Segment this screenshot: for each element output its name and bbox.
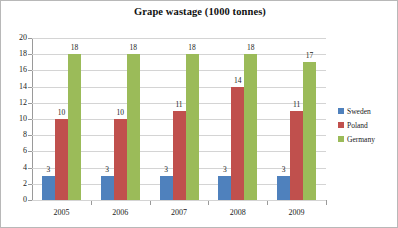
y-tick-mark <box>28 103 32 104</box>
x-tick-mark <box>326 201 327 205</box>
bar-value-label: 18 <box>179 44 205 52</box>
legend-swatch-icon <box>338 136 344 142</box>
y-tick-mark <box>28 70 32 71</box>
legend-item-poland[interactable]: Poland <box>338 118 398 132</box>
y-tick-label: 12 <box>5 99 27 107</box>
y-tick-mark <box>28 87 32 88</box>
y-tick-mark <box>28 151 32 152</box>
y-tick-mark <box>28 184 32 185</box>
legend-swatch-icon <box>338 122 344 128</box>
bar-sweden-2009[interactable] <box>277 176 290 200</box>
legend-label: Sweden <box>347 107 371 116</box>
y-tick-mark <box>28 119 32 120</box>
legend-item-germany[interactable]: Germany <box>338 132 398 146</box>
bar-value-label: 17 <box>297 52 323 60</box>
bar-germany-2008[interactable] <box>244 54 257 200</box>
x-tick-label-2009: 2009 <box>267 208 327 217</box>
bar-poland-2005[interactable] <box>55 119 68 200</box>
x-tick-mark <box>267 201 268 205</box>
bar-value-label: 18 <box>120 44 146 52</box>
bar-value-label: 18 <box>238 44 264 52</box>
gridline <box>32 38 326 39</box>
bar-germany-2005[interactable] <box>68 54 81 200</box>
y-tick-mark <box>28 54 32 55</box>
plot-area: 3101831018311183141831117 <box>32 38 326 200</box>
x-tick-mark <box>91 201 92 205</box>
y-axis: 20181614121086420 <box>1 1 27 228</box>
chart-container: Grape wastage (1000 tonnes) 201816141210… <box>0 0 398 228</box>
chart-title: Grape wastage (1000 tonnes) <box>1 6 398 17</box>
y-tick-label: 8 <box>5 131 27 139</box>
bar-poland-2007[interactable] <box>173 111 186 200</box>
y-tick-label: 0 <box>5 196 27 204</box>
chart-legend: SwedenPolandGermany <box>338 104 398 146</box>
bar-germany-2009[interactable] <box>303 62 316 200</box>
x-tick-label-2005: 2005 <box>31 208 91 217</box>
x-tick-label-2006: 2006 <box>90 208 150 217</box>
bar-sweden-2007[interactable] <box>160 176 173 200</box>
bar-germany-2006[interactable] <box>127 54 140 200</box>
y-tick-mark <box>28 135 32 136</box>
y-tick-label: 4 <box>5 164 27 172</box>
x-tick-mark <box>150 201 151 205</box>
y-tick-label: 10 <box>5 115 27 123</box>
y-tick-mark <box>28 200 32 201</box>
legend-swatch-icon <box>338 108 344 114</box>
y-tick-label: 20 <box>5 34 27 42</box>
y-tick-mark <box>28 38 32 39</box>
x-tick-label-2008: 2008 <box>208 208 268 217</box>
gridline <box>32 200 326 201</box>
y-tick-label: 6 <box>5 147 27 155</box>
bar-poland-2006[interactable] <box>114 119 127 200</box>
bar-poland-2009[interactable] <box>290 111 303 200</box>
y-tick-label: 16 <box>5 66 27 74</box>
bar-sweden-2006[interactable] <box>101 176 114 200</box>
legend-label: Germany <box>347 135 375 144</box>
bar-poland-2008[interactable] <box>231 87 244 200</box>
x-tick-label-2007: 2007 <box>149 208 209 217</box>
bar-germany-2007[interactable] <box>186 54 199 200</box>
legend-item-sweden[interactable]: Sweden <box>338 104 398 118</box>
legend-label: Poland <box>347 121 368 130</box>
bar-sweden-2008[interactable] <box>218 176 231 200</box>
bar-value-label: 18 <box>61 44 87 52</box>
bar-sweden-2005[interactable] <box>42 176 55 200</box>
y-tick-label: 2 <box>5 180 27 188</box>
y-tick-label: 14 <box>5 83 27 91</box>
x-tick-mark <box>208 201 209 205</box>
y-tick-mark <box>28 168 32 169</box>
y-tick-label: 18 <box>5 50 27 58</box>
